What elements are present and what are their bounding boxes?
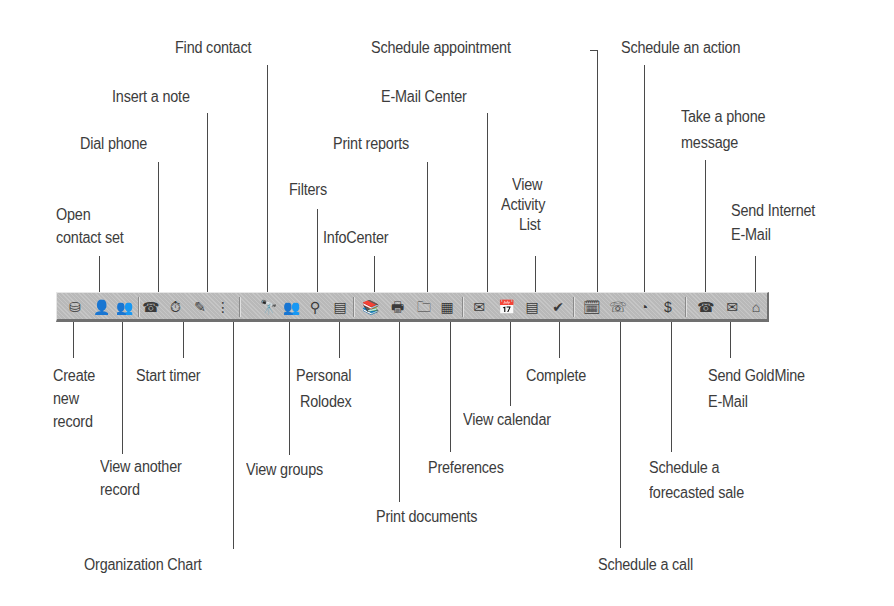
leader-send-internet-email <box>755 256 756 292</box>
label-start-timer: Start timer <box>136 366 200 385</box>
label-send-goldmine-email-line1: Send GoldMine <box>708 366 805 385</box>
preferences-icon: ▦ <box>440 298 453 316</box>
view-groups-button[interactable]: 👥 <box>281 298 301 316</box>
leader-schedule-an-action <box>644 65 645 292</box>
label-schedule-appointment: Schedule appointment <box>371 38 511 57</box>
label-print-reports: Print reports <box>333 134 409 153</box>
personal-rolodex-button[interactable]: ▤ <box>330 298 350 316</box>
schedule-call-icon: ☏ <box>609 298 627 316</box>
leader-complete <box>559 322 560 358</box>
label-email-center: E-Mail Center <box>381 87 467 106</box>
schedule-appointment-button[interactable]: 🗓 <box>582 298 602 316</box>
send-goldmine-email-button[interactable]: ✉ <box>722 298 742 316</box>
leader-view-another-record <box>122 322 123 454</box>
label-send-internet-email-line1: Send Internet <box>731 201 815 220</box>
label-schedule-an-action: Schedule an action <box>621 38 740 57</box>
label-create-new-record-line1: Create <box>53 366 95 385</box>
internet-mail-icon: ⌂ <box>752 298 760 316</box>
label-personal-rolodex-line1: Personal <box>296 366 351 385</box>
label-view-activity-list-line2: Activity <box>501 195 545 214</box>
leader-open-contact-set <box>99 256 100 292</box>
label-take-phone-message-line2: message <box>681 133 738 152</box>
label-view-activity-list-line3: List <box>519 215 541 234</box>
leader-organization-chart <box>233 322 234 549</box>
leader-schedule-forecasted-sale <box>671 322 672 452</box>
open-contact-set-button[interactable]: ⛁ <box>65 298 85 316</box>
toolbar-separator <box>138 297 140 317</box>
organization-chart-button[interactable]: ⋮ <box>213 298 233 316</box>
leader-print-documents <box>399 322 400 502</box>
goldmine-toolbar: ⛁ 👤 👥 ☎ ⏱ ✎ ⋮ 🔭 👥 ⚲ ▤ 📚 🖶 🗀 ▦ ✉ 📅 ▤ ✔ 🗓 … <box>56 292 769 322</box>
label-organization-chart: Organization Chart <box>84 555 202 574</box>
binoculars-icon: 🔭 <box>260 298 277 316</box>
leader-find-contact <box>267 65 268 292</box>
toolbar-separator <box>685 297 687 317</box>
view-calendar-button[interactable]: 📅 <box>496 298 516 316</box>
send-internet-email-button[interactable]: ⌂ <box>746 298 766 316</box>
leader-take-phone-message <box>705 160 706 292</box>
label-schedule-a-call: Schedule a call <box>598 555 693 574</box>
leader-insert-a-note <box>207 113 208 292</box>
label-send-goldmine-email-line2: E-Mail <box>708 392 748 411</box>
label-complete: Complete <box>526 366 586 385</box>
find-contact-button[interactable]: 🔭 <box>258 298 278 316</box>
schedule-call-button[interactable]: ☏ <box>608 298 628 316</box>
create-new-record-button[interactable]: 👤 <box>91 298 111 316</box>
group-icon: 👥 <box>283 298 300 316</box>
label-schedule-forecasted-sale-line2: forecasted sale <box>649 483 744 502</box>
leader-infocenter <box>374 256 375 292</box>
leader-schedule-appointment <box>597 50 598 292</box>
books-icon: 📚 <box>362 298 379 316</box>
label-preferences: Preferences <box>428 458 504 477</box>
appointment-icon: 🗓 <box>583 298 601 316</box>
schedule-action-button[interactable]: ◔ <box>634 298 654 316</box>
filters-button[interactable]: ⚲ <box>305 298 325 316</box>
take-phone-message-button[interactable]: ☎ <box>696 298 716 316</box>
label-create-new-record-line2: new <box>53 389 79 408</box>
label-take-phone-message-line1: Take a phone <box>681 107 765 126</box>
timer-icon: ⏱ <box>170 298 181 316</box>
label-dial-phone: Dial phone <box>80 134 147 153</box>
contact-set-icon: ⛁ <box>69 298 81 316</box>
toolbar-separator <box>239 297 241 317</box>
phone-icon: ☎ <box>142 298 159 316</box>
label-insert-a-note: Insert a note <box>112 87 190 106</box>
label-open-contact-set-line2: contact set <box>56 228 124 247</box>
label-filters: Filters <box>289 180 327 199</box>
calendar-icon: 📅 <box>498 298 515 316</box>
leader-personal-rolodex <box>339 322 340 358</box>
leader-print-reports <box>427 162 428 292</box>
label-print-documents: Print documents <box>376 507 477 526</box>
activity-list-icon: ▤ <box>525 298 538 316</box>
start-timer-button[interactable]: ⏱ <box>165 298 185 316</box>
leader-preferences <box>450 322 451 452</box>
complete-button[interactable]: ✔ <box>548 298 568 316</box>
print-document-icon: 🖶 <box>391 298 404 316</box>
label-send-internet-email-line2: E-Mail <box>731 225 771 244</box>
leader-email-center <box>487 113 488 292</box>
toolbar-separator <box>353 297 355 317</box>
preferences-button[interactable]: ▦ <box>437 298 457 316</box>
label-view-activity-list-line1: View <box>512 175 542 194</box>
leader-start-timer <box>183 322 184 358</box>
print-reports-button[interactable]: 🗀 <box>414 298 434 316</box>
rolodex-icon: ▤ <box>333 298 346 316</box>
filter-icon: ⚲ <box>310 298 320 316</box>
label-open-contact-set-line1: Open <box>56 205 91 224</box>
view-another-record-button[interactable]: 👥 <box>114 298 134 316</box>
goldmine-mail-icon: ✉ <box>726 298 738 316</box>
email-center-button[interactable]: ✉ <box>469 298 489 316</box>
infocenter-button[interactable]: 📚 <box>360 298 380 316</box>
leader-hook-schedule-appointment <box>590 50 597 51</box>
leader-create-new-record <box>73 322 74 358</box>
leader-filters <box>317 209 318 292</box>
label-schedule-forecasted-sale-line1: Schedule a <box>649 458 719 477</box>
insert-note-button[interactable]: ✎ <box>190 298 210 316</box>
view-activity-list-button[interactable]: ▤ <box>522 298 542 316</box>
dial-phone-button[interactable]: ☎ <box>141 298 161 316</box>
schedule-forecasted-sale-button[interactable]: $ <box>658 298 678 316</box>
print-documents-button[interactable]: 🖶 <box>387 298 407 316</box>
leader-view-activity-list <box>535 256 536 292</box>
leader-schedule-a-call <box>620 322 621 548</box>
person-add-icon: 👤 <box>93 298 110 316</box>
